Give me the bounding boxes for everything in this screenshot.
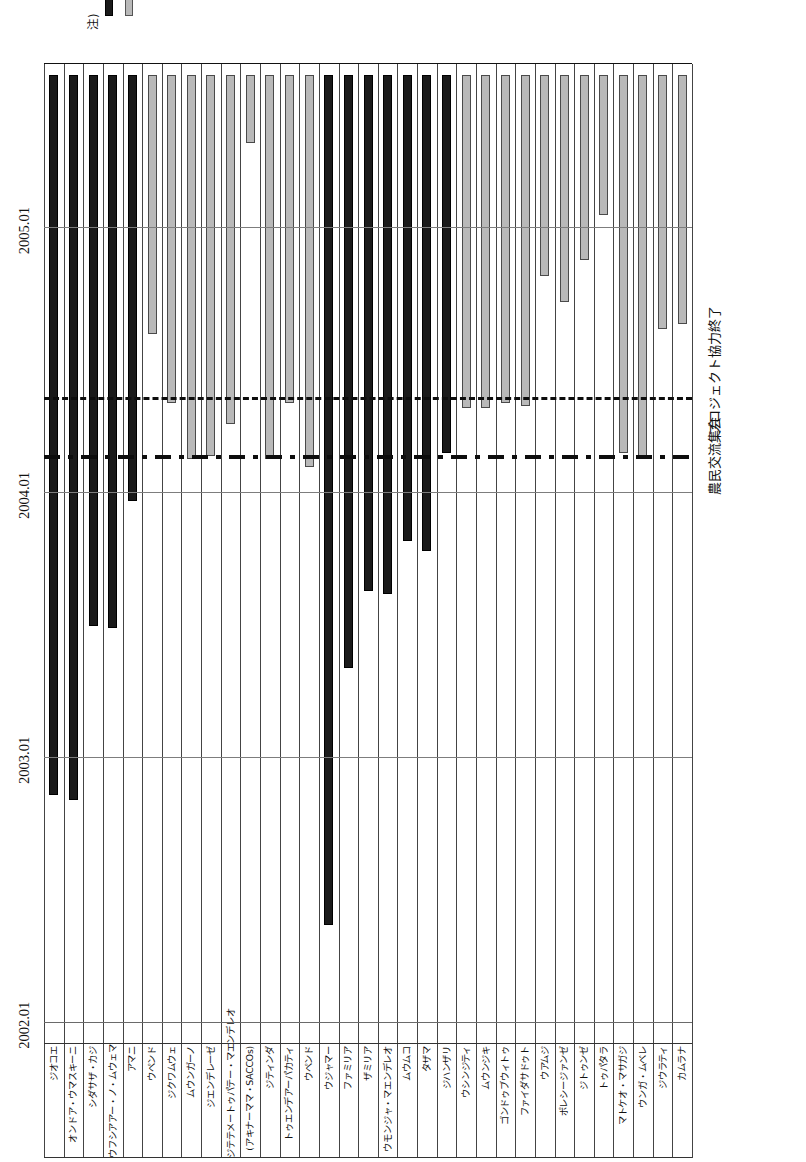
gantt-bar: [69, 75, 78, 801]
gantt-bar: [501, 75, 510, 403]
gantt-bar: [403, 75, 412, 541]
gantt-bar: [305, 75, 314, 467]
row-label: オンドア・ウマスキーニ: [73, 1046, 82, 1158]
row-label: ムウムコ: [407, 1046, 416, 1158]
row-label: ジクワムウェ: [172, 1046, 181, 1158]
label-table-left-border: [44, 1157, 692, 1158]
gantt-bar: [89, 75, 98, 626]
row-label: ジオコエ: [54, 1046, 63, 1158]
row-label: シダサザ・カジ: [93, 1046, 102, 1158]
year-gridline: [44, 492, 692, 493]
row-label: ムウンガーノ: [191, 1046, 200, 1158]
axis-tick-label: 2004.01: [16, 472, 33, 519]
plot-left-axis: [44, 1043, 692, 1044]
row-label: アマニ: [132, 1046, 141, 1158]
legend-swatch-light: [125, 0, 133, 16]
gantt-bar: [187, 75, 196, 459]
row-label: (アキナーママ・SACCOs): [250, 1046, 259, 1158]
plot-right-border: [44, 63, 692, 64]
gantt-bar: [49, 75, 58, 795]
gantt-bar: [580, 75, 589, 260]
gantt-bar: [167, 75, 176, 403]
row-label: ウンガ・ムベレ: [643, 1046, 652, 1158]
gantt-bar: [108, 75, 117, 629]
gantt-bar: [540, 75, 549, 276]
gantt-bar: [285, 75, 294, 403]
row-label: トゥエンデアーパカティ: [289, 1046, 298, 1158]
row-label: ジエンデレーゼ: [211, 1046, 220, 1158]
year-gridline: [44, 1022, 692, 1023]
axis-tick-label: 2003.01: [16, 737, 33, 784]
axis-tick-label: 2005.01: [16, 207, 33, 254]
gantt-bar: [560, 75, 569, 303]
row-label: ウフシアアー・ノ・ムウェマ: [113, 1046, 122, 1158]
event-marker-line: [44, 397, 692, 400]
row-label: トゥパタラ: [604, 1046, 613, 1158]
row-label: ジティンダ: [270, 1046, 279, 1158]
gantt-bar: [383, 75, 392, 594]
notes-prefix: 注): [84, 13, 100, 30]
row-label: ウジャマー: [329, 1046, 338, 1158]
gantt-bar: [128, 75, 137, 501]
row-label: ゴンドゥブウィトゥ: [505, 1046, 514, 1158]
gantt-bar: [364, 75, 373, 591]
gantt-bar: [462, 75, 471, 409]
row-label: ウモンジャ・マエンデレオ: [388, 1046, 397, 1158]
gantt-bar: [324, 75, 333, 925]
row-label: ファミリア: [348, 1046, 357, 1158]
row-label: ファイダサドゥト: [525, 1046, 534, 1158]
row-label: ジテテメートゥパテー・マエンデレオ: [231, 1046, 240, 1158]
legend-swatch-dark: [105, 0, 113, 16]
gantt-plot-area: [44, 64, 692, 1044]
row-label: ジウラティ: [663, 1046, 672, 1158]
gantt-bar: [265, 75, 274, 459]
gantt-bar: [521, 75, 530, 406]
year-gridline: [44, 757, 692, 758]
gantt-bar: [422, 75, 431, 552]
gantt-chart-figure: ジオコエオンドア・ウマスキーニシダサザ・カジウフシアアー・ノ・ムウェマアマニウペ…: [0, 0, 806, 1162]
gantt-bar: [678, 75, 687, 324]
axis-tick-label: 2002.01: [16, 1002, 33, 1049]
row-label: ウシンジティ: [466, 1046, 475, 1158]
row-label: マトケオ・マサガジ: [623, 1046, 632, 1158]
year-gridline: [44, 227, 692, 228]
row-label: カムラナ: [682, 1046, 691, 1158]
row-label: ウアムジ: [545, 1046, 554, 1158]
row-label: ザミリア: [368, 1046, 377, 1158]
row-label: ムウンジキ: [486, 1046, 495, 1158]
row-label: ジトゥンゼ: [584, 1046, 593, 1158]
gantt-bar: [481, 75, 490, 409]
gantt-bar: [599, 75, 608, 215]
row-label: ポレシージァンゼ: [564, 1046, 573, 1158]
gantt-bar: [148, 75, 157, 335]
gantt-bar: [658, 75, 667, 329]
row-separator: [692, 64, 693, 1158]
row-label: タザマ: [427, 1046, 436, 1158]
event-marker-label: プロジェクト協力終了: [704, 306, 723, 436]
row-label: ウペンド: [309, 1046, 318, 1158]
gantt-bar: [226, 75, 235, 425]
gantt-bar: [344, 75, 353, 668]
row-label: ウペンド: [152, 1046, 161, 1158]
gantt-bar: [246, 75, 255, 144]
row-label: ジハンザリ: [447, 1046, 456, 1158]
event-marker-line: [44, 455, 692, 459]
